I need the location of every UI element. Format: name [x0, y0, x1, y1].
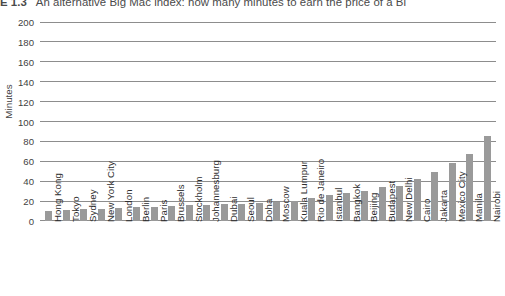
- y-tick-label: 200: [18, 17, 34, 28]
- x-tick-label: New York City: [105, 161, 116, 222]
- gridline: [40, 81, 496, 82]
- bar: [396, 186, 403, 221]
- figure-number: E 1.3: [0, 0, 27, 8]
- bar: [98, 209, 105, 221]
- y-tick-label: 140: [18, 76, 34, 87]
- bar: [291, 201, 298, 221]
- x-tick-label: Paris: [158, 200, 169, 222]
- gridline: [40, 101, 496, 102]
- bar: [326, 195, 333, 221]
- y-axis-label: Minutes: [3, 72, 14, 132]
- y-tick-label: 160: [18, 56, 34, 67]
- x-tick-label: Manila: [473, 193, 484, 222]
- y-tick-label: 60: [23, 156, 34, 167]
- bar: [63, 210, 70, 221]
- x-tick-label: Dubai: [228, 196, 239, 222]
- bar: [484, 136, 491, 221]
- bar: [361, 191, 368, 221]
- x-tick-label: Stockholm: [193, 176, 204, 222]
- y-tick-label: 120: [18, 96, 34, 107]
- x-axis-ticks: Hong KongTokyoSydneyNew York CityLondonB…: [40, 222, 496, 296]
- bar: [343, 193, 350, 221]
- bar: [133, 207, 140, 221]
- x-tick-label: Hong Kong: [52, 173, 63, 222]
- x-tick-label: Nairobi: [491, 191, 502, 222]
- y-tick-label: 20: [23, 196, 34, 207]
- bar: [379, 187, 386, 221]
- bar: [414, 179, 421, 221]
- x-tick-label: Johannesburg: [210, 160, 221, 222]
- bar: [256, 203, 263, 221]
- y-tick-label: 80: [23, 136, 34, 147]
- gridline: [40, 141, 496, 142]
- x-tick-label: Sydney: [87, 189, 98, 222]
- x-tick-label: Tokyo: [70, 196, 81, 222]
- x-tick-label: Cairo: [421, 199, 432, 222]
- x-tick-label: Berlin: [140, 197, 151, 222]
- bar: [151, 207, 158, 221]
- y-tick-label: 40: [23, 176, 34, 187]
- figure-title-text: An alternative Big Mac index: how many m…: [36, 0, 406, 8]
- x-tick-label: New Delhi: [403, 177, 414, 222]
- bar: [221, 204, 228, 221]
- x-tick-label: Moscow: [280, 186, 291, 222]
- figure-title: E 1.3An alternative Big Mac index: how m…: [0, 0, 505, 8]
- y-tick-label: 0: [29, 216, 34, 227]
- x-tick-label: Seoul: [245, 197, 256, 222]
- x-tick-label: Bangkok: [351, 184, 362, 222]
- x-tick-label: Brussels: [175, 184, 186, 222]
- x-tick-label: Beijing: [368, 193, 379, 223]
- y-tick-label: 100: [18, 116, 34, 127]
- bar: [115, 208, 122, 221]
- x-tick-label: Doha: [263, 199, 274, 222]
- bar: [168, 206, 175, 221]
- bar: [449, 163, 456, 221]
- x-tick-label: Kuala Lumpur: [298, 161, 309, 222]
- x-tick-label: Jakarta: [438, 190, 449, 222]
- y-tick-label: 180: [18, 36, 34, 47]
- gridline: [40, 41, 496, 42]
- x-tick-label: London: [123, 189, 134, 222]
- x-tick-label: Mexico City: [456, 171, 467, 222]
- x-tick-label: Rio de Janeiro: [315, 159, 326, 222]
- gridline: [40, 22, 496, 23]
- gridline: [40, 61, 496, 62]
- x-tick-label: Istanbul: [333, 188, 344, 222]
- bar: [186, 205, 193, 221]
- x-tick-label: Budapest: [386, 181, 397, 222]
- gridline: [40, 121, 496, 122]
